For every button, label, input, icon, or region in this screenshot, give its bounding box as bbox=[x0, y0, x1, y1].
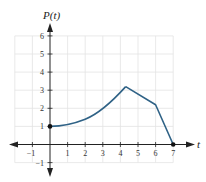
y-axis-up-arrow-icon bbox=[47, 23, 53, 32]
y-tick-label: 6 bbox=[40, 32, 44, 41]
x-tick-label: 4 bbox=[118, 149, 122, 158]
y-axis-label: P(t) bbox=[42, 9, 60, 22]
curve-segment bbox=[50, 87, 126, 127]
chart-svg: −1 1 2 3 4 5 6 7 6 5 4 3 2 1 −1 P(t) t bbox=[0, 0, 206, 182]
y-tick-label: 1 bbox=[40, 122, 44, 131]
y-tick-label: 4 bbox=[40, 68, 44, 77]
chart: −1 1 2 3 4 5 6 7 6 5 4 3 2 1 −1 P(t) t bbox=[0, 0, 206, 182]
y-tick-label: −1 bbox=[35, 159, 44, 168]
x-tick-label: −1 bbox=[27, 149, 36, 158]
grid bbox=[15, 36, 173, 163]
line-segment bbox=[126, 87, 174, 145]
x-axis bbox=[9, 142, 195, 148]
x-tick-label: 5 bbox=[136, 149, 140, 158]
y-tick-label: 2 bbox=[40, 104, 44, 113]
x-tick-label: 1 bbox=[66, 149, 70, 158]
x-tick-label: 2 bbox=[83, 149, 87, 158]
y-axis-down-arrow-icon bbox=[47, 168, 53, 177]
x-tick-label: 3 bbox=[101, 149, 105, 158]
y-tick-labels: 6 5 4 3 2 1 −1 bbox=[35, 32, 44, 168]
x-axis-left-arrow-icon bbox=[9, 142, 18, 148]
end-point bbox=[171, 142, 176, 147]
x-tick-label: 7 bbox=[171, 149, 175, 158]
y-tick-label: 3 bbox=[40, 86, 44, 95]
x-tick-labels: −1 1 2 3 4 5 6 7 bbox=[27, 149, 175, 158]
series-p-of-t bbox=[50, 87, 173, 145]
x-axis-label: t bbox=[197, 138, 201, 150]
x-tick-label: 6 bbox=[154, 149, 158, 158]
y-axis bbox=[47, 23, 53, 177]
start-point bbox=[48, 124, 53, 129]
x-axis-right-arrow-icon bbox=[186, 142, 195, 148]
y-tick-label: 5 bbox=[40, 50, 44, 59]
